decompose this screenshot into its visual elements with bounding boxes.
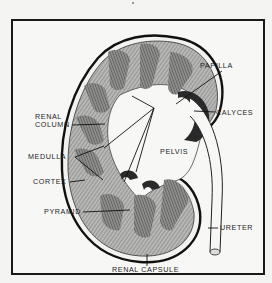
label-cortex: CORTEX xyxy=(33,178,66,186)
label-ureter: URETER xyxy=(220,224,253,232)
label-pelvis: PELVIS xyxy=(160,148,188,156)
label-renal-column-line2: COLUMN xyxy=(35,121,70,129)
label-renal-capsule: RENAL CAPSULE xyxy=(112,266,179,274)
kidney-illustration xyxy=(0,0,272,283)
label-medulla: MEDULLA xyxy=(28,153,66,161)
label-calyces: CALYCES xyxy=(216,109,253,117)
ureter-end xyxy=(210,249,220,255)
label-papilla: PAPILLA xyxy=(200,62,233,70)
label-pyramid: PYRAMID xyxy=(44,208,81,216)
